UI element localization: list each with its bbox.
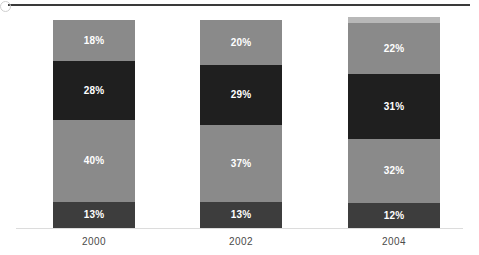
bar-2002-segment-bottom[interactable]: 13% — [200, 202, 282, 228]
bar-2004-segment-lower-middle[interactable]: 32% — [348, 139, 440, 203]
category-label-2002: 2002 — [200, 236, 282, 247]
bar-2002-segment-lower-middle[interactable]: 37% — [200, 125, 282, 202]
segment-value-label: 18% — [84, 36, 105, 46]
bar-2004-segment-bottom[interactable]: 12% — [348, 203, 440, 228]
segment-value-label: 20% — [231, 38, 252, 48]
bar-2004-segment-top[interactable]: 22% — [348, 23, 440, 74]
segment-value-label: 32% — [384, 166, 405, 176]
category-axis-line — [16, 228, 463, 229]
bar-2000-segment-top[interactable]: 18% — [53, 20, 135, 61]
segment-value-label: 28% — [84, 86, 105, 96]
stacked-bar-chart-plot-area: 18%28%40%13%20%29%37%13%22%31%32%12% 200… — [0, 0, 479, 255]
segment-value-label: 40% — [84, 156, 105, 166]
segment-value-label: 13% — [84, 210, 105, 220]
chart-canvas: 18%28%40%13%20%29%37%13%22%31%32%12% 200… — [0, 0, 479, 255]
bar-2002[interactable]: 20%29%37%13% — [200, 20, 282, 228]
segment-value-label: 31% — [384, 102, 405, 112]
bar-2000-segment-bottom[interactable]: 13% — [53, 202, 135, 228]
bar-2002-segment-upper-middle[interactable]: 29% — [200, 65, 282, 125]
bar-2000-segment-upper-middle[interactable]: 28% — [53, 61, 135, 120]
category-label-2000: 2000 — [53, 236, 135, 247]
bar-2000-segment-lower-middle[interactable]: 40% — [53, 120, 135, 202]
segment-value-label: 29% — [231, 90, 252, 100]
bar-2002-segment-top[interactable]: 20% — [200, 20, 282, 65]
segment-value-label: 13% — [231, 210, 252, 220]
bar-2000[interactable]: 18%28%40%13% — [53, 20, 135, 228]
bar-2004[interactable]: 22%31%32%12% — [348, 17, 440, 228]
segment-value-label: 12% — [384, 211, 405, 221]
bar-2004-segment-upper-middle[interactable]: 31% — [348, 74, 440, 139]
segment-value-label: 37% — [231, 159, 252, 169]
category-label-2004: 2004 — [348, 236, 440, 247]
segment-value-label: 22% — [384, 44, 405, 54]
